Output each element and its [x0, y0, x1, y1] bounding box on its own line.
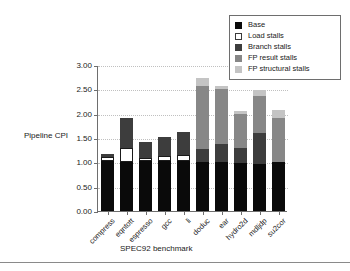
legend-swatch-load-stalls: [235, 33, 242, 40]
x-axis-label-mdljdp: mdljdp: [247, 217, 268, 238]
bar-segment: [120, 118, 133, 148]
chart-legend: Base Load stalls Branch stalls FP result…: [229, 15, 341, 80]
bar-segment: [120, 148, 133, 162]
x-axis-label-gcc: gcc: [159, 217, 173, 231]
legend-swatch-base: [235, 22, 242, 29]
bar-segment: [234, 114, 247, 148]
bar-segment: [139, 142, 152, 159]
x-axis-tick: [279, 211, 280, 215]
x-axis-tick: [184, 211, 185, 215]
bar-mdljdp[interactable]: [253, 90, 266, 211]
y-axis-tick-label: 2.00: [76, 111, 92, 119]
y-axis-tick-label: 0.00: [76, 208, 92, 216]
bar-segment: [253, 96, 266, 133]
bar-segment: [120, 162, 133, 211]
x-axis-tick: [108, 211, 109, 215]
legend-swatch-fp-structural-stalls: [235, 66, 242, 73]
bar-segment: [177, 155, 190, 162]
x-axis-tick: [146, 211, 147, 215]
bar-segment: [177, 132, 190, 155]
bar-segment: [272, 162, 285, 211]
bar-segment: [253, 133, 266, 164]
legend-label-load-stalls: Load stalls: [248, 32, 284, 40]
legend-item: Base: [235, 20, 335, 30]
bar-segment: [196, 78, 209, 86]
x-axis-label-li: li: [184, 217, 192, 225]
y-axis-tick: [94, 212, 98, 213]
bar-segment: [177, 161, 190, 211]
legend-swatch-fp-result-stalls: [235, 55, 242, 62]
chart-figure: Pipeline CPI SPEC92 benchmark 0.000.501.…: [0, 0, 350, 271]
bar-ear[interactable]: [215, 86, 228, 211]
bar-eqntott[interactable]: [120, 118, 133, 211]
bar-segment: [272, 110, 285, 117]
x-axis-tick: [203, 211, 204, 215]
bar-segment: [158, 161, 171, 211]
bar-hydro2d[interactable]: [234, 111, 247, 211]
x-axis-label-compress: compress: [88, 217, 116, 245]
legend-swatch-branch-stalls: [235, 44, 242, 51]
legend-label-fp-structural-stalls: FP structural stalls: [248, 65, 310, 73]
bar-segment: [234, 163, 247, 211]
bar-segment: [215, 89, 228, 144]
x-axis-tick: [222, 211, 223, 215]
bar-gcc[interactable]: [158, 137, 171, 211]
bar-segment: [139, 161, 152, 211]
x-axis-tick: [165, 211, 166, 215]
y-axis-title: Pipeline CPI: [24, 131, 68, 140]
x-axis-tick: [241, 211, 242, 215]
footer-rule: [0, 262, 350, 263]
bar-li[interactable]: [177, 132, 190, 211]
bar-segment: [196, 86, 209, 149]
bar-compress[interactable]: [101, 154, 114, 211]
bar-segment: [215, 144, 228, 162]
legend-label-fp-result-stalls: FP result stalls: [248, 54, 297, 62]
bar-segment: [234, 148, 247, 163]
y-axis-tick-label: 1.00: [76, 159, 92, 167]
y-axis-tick-label: 2.50: [76, 86, 92, 94]
x-axis-label-doduc: doduc: [191, 217, 211, 237]
bar-segment: [196, 162, 209, 211]
bar-segment: [101, 161, 114, 211]
legend-label-base: Base: [248, 21, 265, 29]
legend-item: FP result stalls: [235, 53, 335, 63]
bar-segment: [196, 149, 209, 162]
legend-item: FP structural stalls: [235, 64, 335, 74]
y-axis-tick-label: 0.50: [76, 184, 92, 192]
legend-label-branch-stalls: Branch stalls: [248, 43, 291, 51]
x-axis-label-su2cor: su2cor: [266, 217, 287, 238]
bar-group: compresseqntottespressogcclidoducearhydr…: [98, 65, 288, 211]
y-axis-tick-label: 1.50: [76, 135, 92, 143]
x-axis-tick: [127, 211, 128, 215]
bar-espresso[interactable]: [139, 142, 152, 211]
x-axis-title: SPEC92 benchmark: [120, 244, 192, 253]
bar-segment: [215, 162, 228, 211]
bar-segment: [253, 164, 266, 211]
bar-segment: [158, 137, 171, 156]
legend-item: Branch stalls: [235, 42, 335, 52]
x-axis-tick: [260, 211, 261, 215]
legend-item: Load stalls: [235, 31, 335, 41]
x-axis-label-ear: ear: [217, 217, 230, 230]
plot-area: 0.000.501.001.502.002.503.00 compresseqn…: [97, 66, 287, 212]
y-axis-tick-label: 3.00: [76, 62, 92, 70]
bar-su2cor[interactable]: [272, 110, 285, 211]
bar-segment: [272, 118, 285, 163]
bar-doduc[interactable]: [196, 78, 209, 211]
